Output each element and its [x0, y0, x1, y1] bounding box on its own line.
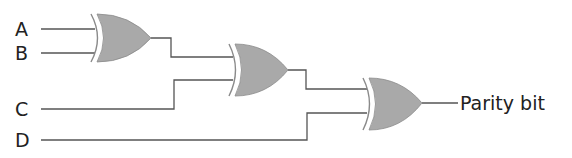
parity-circuit-diagram: A B C D Parity bit	[0, 0, 572, 158]
input-label-d: D	[15, 129, 30, 151]
xor-gate-2	[229, 44, 288, 96]
input-label-a: A	[15, 18, 28, 40]
wire-d	[41, 113, 367, 140]
input-label-c: C	[15, 98, 28, 120]
input-label-b: B	[15, 42, 28, 64]
xor-gate-3	[363, 78, 422, 130]
wire-xor1-out	[151, 38, 233, 57]
wire-xor2-out	[288, 70, 367, 89]
xor-gate-1	[91, 14, 151, 62]
wire-c	[41, 80, 233, 109]
output-label-parity-bit: Parity bit	[460, 92, 545, 114]
